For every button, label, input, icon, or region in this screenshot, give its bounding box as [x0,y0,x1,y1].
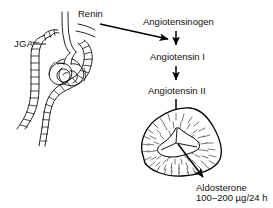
label-aldosterone-dose: 100–200 µg/24 h [196,193,268,203]
label-angiotensin-ii: Angiotensin II [148,86,206,96]
label-angiotensinogen: Angiotensinogen [143,17,214,27]
label-renin: Renin [78,9,103,19]
label-jga: JGA [14,39,33,49]
label-angiotensin-i: Angiotensin I [150,52,205,62]
raas-diagram [0,0,273,208]
adrenal-gland-drawing [142,108,222,178]
figure-canvas: Renin JGA Angiotensinogen Angiotensin I … [0,0,273,208]
nephron-drawing [17,12,95,146]
